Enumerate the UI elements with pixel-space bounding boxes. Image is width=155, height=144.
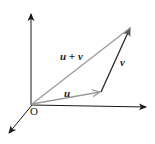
label-v: v [120,56,125,68]
vector-u-plus-v [32,28,130,104]
vector-v [101,28,130,92]
y-axis [32,105,146,107]
label-origin: O [30,105,38,117]
vector-diagram: u + v v u O [0,0,155,144]
label-u-plus-v: u + v [60,50,83,62]
x-axis [9,105,32,133]
label-u: u [64,87,70,99]
